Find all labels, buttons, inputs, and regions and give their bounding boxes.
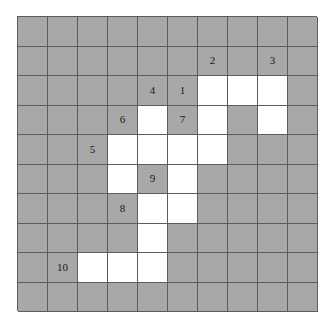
grid-cell-r5-c2[interactable] <box>78 165 108 195</box>
grid-cell-r4-c3[interactable] <box>108 135 138 165</box>
grid-cell-r6-c2[interactable] <box>78 194 108 224</box>
grid-cell-r9-c7[interactable] <box>228 283 258 313</box>
grid-cell-r9-c3[interactable] <box>108 283 138 313</box>
grid-cell-r1-c4[interactable] <box>138 47 168 77</box>
grid-cell-r1-c3[interactable] <box>108 47 138 77</box>
grid-cell-r1-c1[interactable] <box>48 47 78 77</box>
grid-cell-r8-c7[interactable] <box>228 253 258 283</box>
grid-cell-r9-c4[interactable] <box>138 283 168 313</box>
grid-cell-r4-c6[interactable] <box>198 135 228 165</box>
grid-cell-r7-c2[interactable] <box>78 224 108 254</box>
grid-cell-r7-c4[interactable] <box>138 224 168 254</box>
grid-cell-r1-c8[interactable]: 3 <box>258 47 288 77</box>
grid-cell-r5-c3[interactable] <box>108 165 138 195</box>
grid-cell-r3-c9[interactable] <box>288 106 318 136</box>
grid-cell-r6-c0[interactable] <box>18 194 48 224</box>
grid-cell-r3-c2[interactable] <box>78 106 108 136</box>
grid-cell-r0-c3[interactable] <box>108 17 138 47</box>
grid-cell-r4-c9[interactable] <box>288 135 318 165</box>
grid-cell-r1-c7[interactable] <box>228 47 258 77</box>
grid-cell-r6-c6[interactable] <box>198 194 228 224</box>
grid-cell-r5-c7[interactable] <box>228 165 258 195</box>
grid-cell-r7-c3[interactable] <box>108 224 138 254</box>
grid-cell-r2-c2[interactable] <box>78 76 108 106</box>
grid-cell-r2-c1[interactable] <box>48 76 78 106</box>
grid-cell-r1-c9[interactable] <box>288 47 318 77</box>
grid-cell-r2-c6[interactable] <box>198 76 228 106</box>
grid-cell-r0-c4[interactable] <box>138 17 168 47</box>
grid-cell-r8-c8[interactable] <box>258 253 288 283</box>
grid-cell-r1-c6[interactable]: 2 <box>198 47 228 77</box>
grid-cell-r3-c3[interactable]: 6 <box>108 106 138 136</box>
grid-cell-r5-c8[interactable] <box>258 165 288 195</box>
grid-cell-r7-c7[interactable] <box>228 224 258 254</box>
grid-cell-r2-c5[interactable]: 1 <box>168 76 198 106</box>
grid-cell-r4-c8[interactable] <box>258 135 288 165</box>
grid-cell-r4-c5[interactable] <box>168 135 198 165</box>
grid-cell-r2-c8[interactable] <box>258 76 288 106</box>
grid-cell-r6-c9[interactable] <box>288 194 318 224</box>
grid-cell-r6-c8[interactable] <box>258 194 288 224</box>
grid-cell-r5-c5[interactable] <box>168 165 198 195</box>
grid-cell-r8-c6[interactable] <box>198 253 228 283</box>
grid-cell-r0-c8[interactable] <box>258 17 288 47</box>
grid-cell-r7-c1[interactable] <box>48 224 78 254</box>
grid-cell-r6-c1[interactable] <box>48 194 78 224</box>
grid-cell-r9-c2[interactable] <box>78 283 108 313</box>
grid-cell-r2-c9[interactable] <box>288 76 318 106</box>
grid-cell-r2-c3[interactable] <box>108 76 138 106</box>
grid-cell-r6-c7[interactable] <box>228 194 258 224</box>
grid-cell-r5-c0[interactable] <box>18 165 48 195</box>
grid-cell-r7-c9[interactable] <box>288 224 318 254</box>
grid-cell-r2-c0[interactable] <box>18 76 48 106</box>
grid-cell-r0-c0[interactable] <box>18 17 48 47</box>
grid-cell-r6-c3[interactable]: 8 <box>108 194 138 224</box>
grid-cell-r1-c0[interactable] <box>18 47 48 77</box>
grid-cell-r3-c7[interactable] <box>228 106 258 136</box>
grid-cell-r3-c5[interactable]: 7 <box>168 106 198 136</box>
grid-cell-r7-c6[interactable] <box>198 224 228 254</box>
grid-cell-r8-c0[interactable] <box>18 253 48 283</box>
grid-cell-r0-c7[interactable] <box>228 17 258 47</box>
grid-cell-r2-c7[interactable] <box>228 76 258 106</box>
grid-cell-r8-c9[interactable] <box>288 253 318 283</box>
grid-cell-r4-c7[interactable] <box>228 135 258 165</box>
grid-cell-r3-c1[interactable] <box>48 106 78 136</box>
grid-cell-r9-c0[interactable] <box>18 283 48 313</box>
grid-cell-r3-c6[interactable] <box>198 106 228 136</box>
grid-cell-r3-c0[interactable] <box>18 106 48 136</box>
grid-cell-r4-c0[interactable] <box>18 135 48 165</box>
grid-cell-r7-c5[interactable] <box>168 224 198 254</box>
grid-cell-r4-c1[interactable] <box>48 135 78 165</box>
grid-cell-r7-c8[interactable] <box>258 224 288 254</box>
grid-cell-r9-c9[interactable] <box>288 283 318 313</box>
grid-cell-r8-c1[interactable]: 10 <box>48 253 78 283</box>
grid-cell-r6-c4[interactable] <box>138 194 168 224</box>
grid-cell-r4-c4[interactable] <box>138 135 168 165</box>
grid-cell-r8-c5[interactable] <box>168 253 198 283</box>
grid-cell-r9-c8[interactable] <box>258 283 288 313</box>
grid-cell-r0-c9[interactable] <box>288 17 318 47</box>
grid-cell-r6-c5[interactable] <box>168 194 198 224</box>
grid-cell-r4-c2[interactable]: 5 <box>78 135 108 165</box>
grid-cell-r0-c5[interactable] <box>168 17 198 47</box>
grid-cell-r5-c6[interactable] <box>198 165 228 195</box>
grid-cell-r5-c4[interactable]: 9 <box>138 165 168 195</box>
grid-cell-r7-c0[interactable] <box>18 224 48 254</box>
grid-cell-r1-c2[interactable] <box>78 47 108 77</box>
grid-cell-r8-c3[interactable] <box>108 253 138 283</box>
puzzle-grid[interactable]: 23416759810 <box>17 16 317 311</box>
grid-cell-r3-c4[interactable] <box>138 106 168 136</box>
grid-cell-r5-c1[interactable] <box>48 165 78 195</box>
grid-cell-r0-c6[interactable] <box>198 17 228 47</box>
grid-cell-r0-c2[interactable] <box>78 17 108 47</box>
grid-cell-r9-c5[interactable] <box>168 283 198 313</box>
grid-cell-r9-c1[interactable] <box>48 283 78 313</box>
grid-cell-r8-c4[interactable] <box>138 253 168 283</box>
grid-cell-r1-c5[interactable] <box>168 47 198 77</box>
grid-cell-r9-c6[interactable] <box>198 283 228 313</box>
grid-cell-r8-c2[interactable] <box>78 253 108 283</box>
grid-cell-r2-c4[interactable]: 4 <box>138 76 168 106</box>
grid-cell-r3-c8[interactable] <box>258 106 288 136</box>
grid-cell-r0-c1[interactable] <box>48 17 78 47</box>
